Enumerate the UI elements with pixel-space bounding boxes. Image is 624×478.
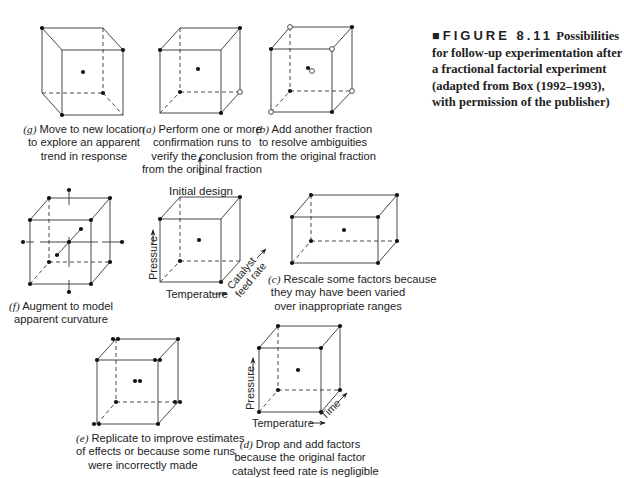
open-points (238, 25, 355, 115)
cube-f (26, 190, 122, 292)
caption-c: (c) Rescale some factors because they ma… (268, 273, 408, 313)
axis-pressure-d: Pressure (244, 366, 256, 410)
caption-e: (e) Replicate to improve estimates of ef… (76, 432, 210, 472)
caption-b: (b) Add another fraction to resolve ambi… (256, 123, 370, 163)
caption-d: (d) Drop and add factors because the ori… (232, 438, 368, 478)
axis-time-d: Time (318, 397, 343, 422)
cube-e (97, 339, 178, 424)
caption-f: (f) Augment to model apparent curvature (6, 300, 116, 327)
axis-pressure: Pressure (147, 236, 159, 280)
axis-temperature: Temperature (166, 288, 228, 300)
figure-caption: ■ FIGURE 8.11 Possibilities for follow-u… (432, 28, 624, 111)
figure-label: FIGURE 8.11 (443, 28, 553, 43)
bullet-icon: ■ (432, 29, 440, 43)
design-points (21, 25, 399, 426)
caption-a: (a) Perform one or more confirmation run… (142, 123, 262, 177)
cube-a (160, 28, 240, 113)
axis-temperature-d: Temperature (252, 417, 314, 429)
initial-design-label: Initial design (169, 185, 233, 197)
caption-g: (g) Move to new location to explore an a… (22, 123, 146, 163)
